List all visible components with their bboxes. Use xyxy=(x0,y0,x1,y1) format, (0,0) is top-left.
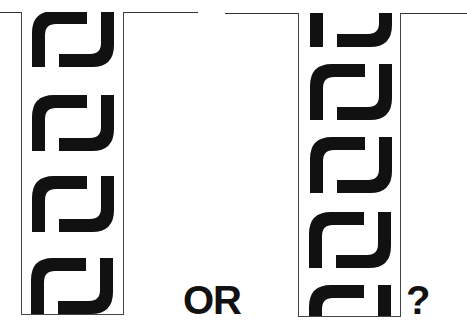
question-mark-label: ? xyxy=(406,280,430,320)
hook-glyph-icon xyxy=(32,176,114,232)
right-option-panel xyxy=(298,13,401,317)
or-connector-label: OR xyxy=(183,280,241,320)
hook-glyph-icon xyxy=(310,64,392,120)
hook-glyph-icon xyxy=(309,212,391,268)
hook-glyph-icon xyxy=(310,137,392,193)
hook-glyph-icon xyxy=(32,95,114,151)
hook-glyph-icon xyxy=(31,258,113,314)
hook-glyph-icon xyxy=(310,13,392,47)
hook-glyph-icon xyxy=(309,285,391,317)
hook-glyph-icon xyxy=(32,12,114,67)
left-option-panel xyxy=(21,12,124,315)
